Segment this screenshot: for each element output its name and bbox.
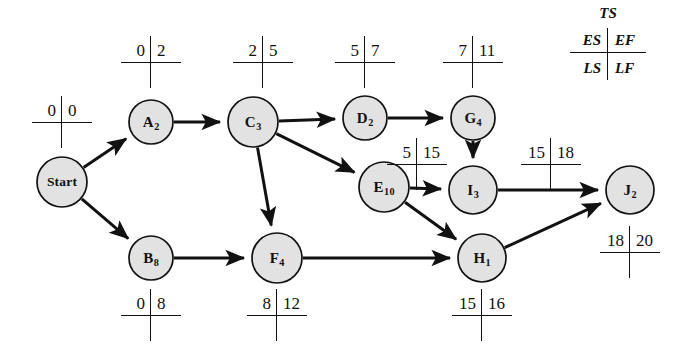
time-marker-ef: 0 xyxy=(62,102,99,121)
time-marker-ef: 2 xyxy=(151,42,188,61)
time-marker-ef: 12 xyxy=(277,295,314,314)
time-marker-horizontal-rule xyxy=(121,62,181,63)
time-marker-e: 515 xyxy=(379,136,455,192)
edge-c-to-d xyxy=(279,119,335,121)
node-name-text: D xyxy=(357,110,368,126)
time-marker-values: 711 xyxy=(435,34,511,61)
legend-row-late: LS LF xyxy=(556,56,660,80)
time-marker-i: 1518 xyxy=(513,136,589,192)
time-marker-horizontal-rule xyxy=(452,315,512,316)
time-marker-values: 00 xyxy=(24,94,100,121)
edge-e-to-h xyxy=(405,202,456,239)
legend-ef-label: EF xyxy=(608,33,660,48)
time-marker-es: 5 xyxy=(328,42,365,61)
time-marker-horizontal-rule xyxy=(233,62,293,63)
time-marker-vertical-rule xyxy=(61,96,62,148)
time-marker-h: 1516 xyxy=(444,287,520,343)
time-marker-es: 7 xyxy=(436,42,473,61)
node-name-text: H xyxy=(473,250,485,266)
time-marker-es: 0 xyxy=(114,295,151,314)
time-marker-values: 1518 xyxy=(513,136,589,163)
legend-vertical-rule xyxy=(607,28,608,80)
time-marker-es: 5 xyxy=(380,144,417,163)
node-name-text: J xyxy=(624,182,632,198)
time-marker-ef: 16 xyxy=(482,295,519,314)
node-duration-text: 4 xyxy=(279,257,284,268)
time-marker-horizontal-rule xyxy=(32,122,92,123)
node-label-c: C3 xyxy=(245,115,261,130)
time-marker-values: 515 xyxy=(379,136,455,163)
time-marker-horizontal-rule xyxy=(600,252,660,253)
node-label-i: I3 xyxy=(467,183,478,198)
time-marker-es: 8 xyxy=(240,295,277,314)
time-marker-ef: 11 xyxy=(473,42,510,61)
time-marker-values: 1516 xyxy=(444,287,520,314)
time-marker-f: 812 xyxy=(239,287,315,343)
edge-c-to-f xyxy=(258,148,272,226)
time-marker-values: 25 xyxy=(225,34,301,61)
node-label-g: G4 xyxy=(464,111,481,126)
time-marker-c: 25 xyxy=(225,34,301,90)
time-marker-d: 57 xyxy=(327,34,403,90)
legend-lf-label: LF xyxy=(608,61,660,76)
node-duration-text: 1 xyxy=(486,257,491,268)
edge-h-to-j xyxy=(505,203,601,247)
legend-ls-label: LS xyxy=(556,61,608,76)
node-name-text: F xyxy=(270,250,279,266)
time-marker-vertical-rule xyxy=(481,289,482,341)
time-marker-vertical-rule xyxy=(416,138,417,190)
time-marker-horizontal-rule xyxy=(443,62,503,63)
node-name-text: G xyxy=(464,110,476,126)
time-marker-es: 0 xyxy=(25,102,62,121)
time-marker-values: 57 xyxy=(327,34,403,61)
time-marker-ef: 15 xyxy=(417,144,454,163)
node-label-b: B8 xyxy=(143,251,159,266)
time-marker-vertical-rule xyxy=(629,226,630,278)
time-marker-g: 711 xyxy=(435,34,511,90)
time-marker-es: 0 xyxy=(114,42,151,61)
node-duration-text: 2 xyxy=(368,117,373,128)
node-label-d: D2 xyxy=(357,111,373,126)
time-marker-horizontal-rule xyxy=(335,62,395,63)
node-label-h: H1 xyxy=(473,251,490,266)
time-marker-vertical-rule xyxy=(276,289,277,341)
time-marker-vertical-rule xyxy=(550,138,551,190)
time-marker-start: 00 xyxy=(24,94,100,150)
edge-start-to-b xyxy=(82,199,128,239)
time-marker-ef: 20 xyxy=(630,232,667,251)
node-label-start: Start xyxy=(47,175,77,189)
time-marker-vertical-rule xyxy=(150,289,151,341)
legend-horizontal-rule xyxy=(570,52,646,53)
time-marker-ef: 7 xyxy=(365,42,402,61)
node-duration-text: 2 xyxy=(154,121,159,132)
node-duration-text: 8 xyxy=(154,257,159,268)
legend-row-early: ES EF xyxy=(556,28,660,52)
time-marker-ef: 5 xyxy=(263,42,300,61)
time-marker-horizontal-rule xyxy=(247,315,307,316)
node-name-text: C xyxy=(245,114,256,130)
time-marker-values: 1820 xyxy=(592,224,668,251)
time-marker-values: 08 xyxy=(113,287,189,314)
time-marker-es: 15 xyxy=(514,144,551,163)
node-label-j: J2 xyxy=(624,183,637,198)
node-duration-text: 2 xyxy=(632,189,637,200)
node-duration-text: 3 xyxy=(256,121,261,132)
node-label-f: F4 xyxy=(270,251,285,266)
legend-es-label: ES xyxy=(556,33,608,48)
time-marker-horizontal-rule xyxy=(521,164,581,165)
time-marker-values: 812 xyxy=(239,287,315,314)
time-marker-es: 15 xyxy=(445,295,482,314)
time-marker-j: 1820 xyxy=(592,224,668,280)
time-marker-es: 2 xyxy=(226,42,263,61)
time-marker-vertical-rule xyxy=(472,36,473,88)
time-marker-b: 08 xyxy=(113,287,189,343)
time-marker-a: 02 xyxy=(113,34,189,90)
time-marker-values: 02 xyxy=(113,34,189,61)
node-name-text: A xyxy=(143,114,154,130)
time-marker-vertical-rule xyxy=(364,36,365,88)
edge-c-to-e xyxy=(276,134,354,173)
time-marker-horizontal-rule xyxy=(387,164,447,165)
time-marker-vertical-rule xyxy=(150,36,151,88)
legend-key: TS ES EF LS LF xyxy=(556,6,660,84)
time-marker-horizontal-rule xyxy=(121,315,181,316)
